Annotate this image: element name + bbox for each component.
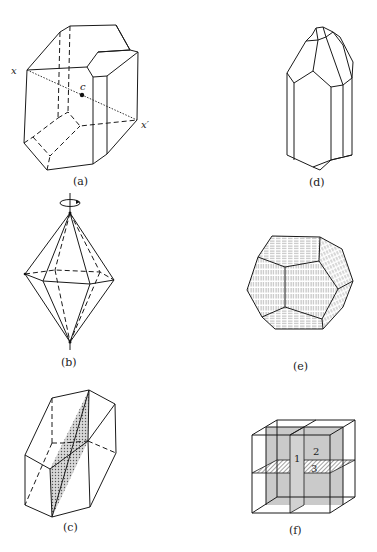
label-x: x: [11, 65, 17, 76]
panel-c-mirror-plane: (c): [25, 390, 116, 534]
crystal-figure: x x′ c (a) (b): [0, 0, 377, 552]
panel-f-cube-mirror-planes: 1 2 3 (f): [252, 420, 355, 537]
label-c: c: [80, 81, 86, 92]
center-of-symmetry-point: [80, 93, 84, 97]
plane-label-2: 2: [313, 446, 319, 457]
panel-c-label: (c): [63, 521, 78, 534]
plane-label-3: 3: [311, 463, 317, 474]
panel-d-prismatic-crystal: (d): [287, 27, 353, 189]
label-x-prime: x′: [141, 119, 150, 130]
panel-e-pentagonal-dodecahedron: (e): [247, 236, 353, 373]
panel-e-label: (e): [293, 360, 308, 373]
panel-b-bipyramid: (b): [24, 193, 114, 369]
plane-label-1: 1: [294, 453, 300, 464]
panel-b-label: (b): [61, 356, 77, 369]
mirror-plane-1: [290, 427, 304, 513]
panel-a-crystal: x x′ c (a): [11, 25, 150, 188]
panel-d-label: (d): [309, 176, 325, 189]
panel-a-label: (a): [73, 175, 88, 188]
panel-f-label: (f): [289, 524, 302, 537]
